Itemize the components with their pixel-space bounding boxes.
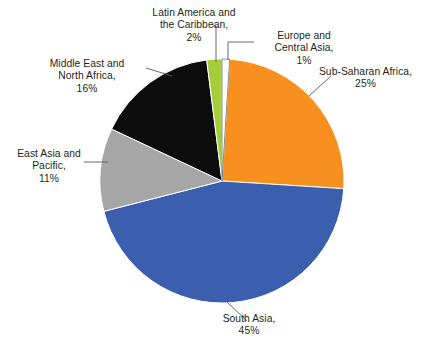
slice-label-middle-east-north-africa: Middle East and North Africa, 16%	[32, 58, 142, 95]
slice-label-south-asia: South Asia, 45%	[196, 313, 302, 338]
slice-label-sub-saharan-africa: Sub-Saharan Africa, 25%	[310, 66, 421, 91]
slice-label-value: 45%	[196, 325, 302, 337]
slice-label-line-2: Pacific,	[6, 160, 92, 172]
slice-label-line-1: Sub-Saharan Africa,	[310, 66, 421, 78]
slice-label-value: 2%	[134, 32, 254, 44]
slice-label-latin-america-caribbean: Latin America and the Caribbean, 2%	[134, 7, 254, 44]
pie-chart: Latin America and the Caribbean, 2% Euro…	[0, 0, 421, 353]
slice-label-line-1: Europe and	[252, 30, 356, 42]
leader-line-europe	[228, 42, 254, 60]
slice-label-east-asia-pacific: East Asia and Pacific, 11%	[6, 148, 92, 185]
slice-label-value: 16%	[32, 83, 142, 95]
pie-slices-group	[100, 59, 344, 303]
slice-label-line-2: North Africa,	[32, 70, 142, 82]
slice-label-line-2: Central Asia,	[252, 42, 356, 54]
slice-label-line-1: East Asia and	[6, 148, 92, 160]
slice-label-europe-central-asia: Europe and Central Asia, 1%	[252, 30, 356, 67]
slice-label-line-1: Latin America and	[134, 7, 254, 19]
slice-label-line-1: Middle East and	[32, 58, 142, 70]
slice-label-value: 25%	[310, 78, 421, 90]
slice-label-value: 11%	[6, 173, 92, 185]
slice-label-line-1: South Asia,	[196, 313, 302, 325]
slice-label-line-2: the Caribbean,	[134, 19, 254, 31]
